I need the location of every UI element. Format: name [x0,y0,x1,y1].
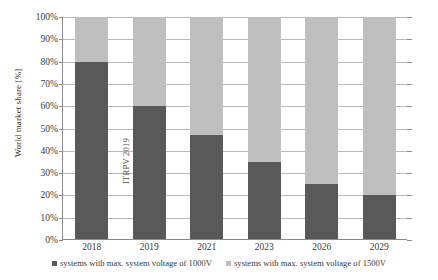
chart-container: World market share [%] 0%10%20%30%40%50%… [0,0,438,280]
legend-swatch-icon [226,261,231,266]
annotation-itrpv: ITRPV 2019 [121,138,131,184]
y-axis-tick-label: 40% [41,146,58,156]
bar-segment-1500v [133,17,166,106]
bar-segment-1000v [190,134,223,239]
y-axis-tick-mark [407,84,412,85]
x-axis-tick-label: 2021 [197,242,216,252]
bar-stack [75,17,108,239]
y-axis-tick-label: 70% [41,79,58,89]
y-axis-tick-mark [407,173,412,174]
y-axis-tick-label: 80% [41,57,58,67]
bar-stack [190,17,223,239]
y-axis-tick-mark [407,39,412,40]
y-axis-tick-mark [407,62,412,63]
bar-segment-1500v [363,17,396,195]
y-axis-title: World market share [%] [13,23,23,203]
bar-segment-1500v [248,17,281,162]
y-axis-tick-mark [59,240,63,241]
legend-label: systems with max. system voltage of 1500… [234,258,386,268]
y-axis-tick-mark [407,195,412,196]
y-axis-tick-label: 30% [41,168,58,178]
bar-segment-1500v [305,17,338,184]
bar-segment-1500v [190,17,223,135]
x-axis-tick-label: 2023 [255,242,274,252]
bar-stack [248,17,281,239]
legend-item: systems with max. system voltage of 1500… [226,258,386,268]
bars-group [63,17,407,239]
legend-item: systems with max. system voltage of 1000… [52,258,212,268]
bar-stack [305,17,338,239]
y-axis-tick-label: 0% [45,235,58,245]
y-axis-tick-mark [407,17,412,18]
bar-segment-1000v [75,61,108,239]
plot-area: 0%10%20%30%40%50%60%70%80%90%100% 201820… [62,17,407,240]
y-axis-tick-mark [407,218,412,219]
x-axis-tick-label: 2019 [140,242,159,252]
y-axis-tick-label: 100% [36,12,58,22]
y-axis-tick-mark [407,151,412,152]
y-axis-tick-mark [407,240,412,241]
y-axis-tick-mark [407,129,412,130]
y-axis-tick-label: 10% [41,213,58,223]
bar-segment-1000v [363,194,396,239]
x-axis-tick-label: 2018 [82,242,101,252]
bar-stack [133,17,166,239]
bar-segment-1000v [248,161,281,239]
y-axis-tick-label: 20% [41,190,58,200]
bar-stack [363,17,396,239]
y-axis-tick-label: 60% [41,101,58,111]
y-axis-tick-label: 90% [41,34,58,44]
legend-label: systems with max. system voltage of 1000… [60,258,212,268]
y-axis-tick-mark [407,106,412,107]
chart-legend: systems with max. system voltage of 1000… [0,258,438,268]
y-axis-tick-label: 50% [41,124,58,134]
bar-segment-1000v [133,105,166,239]
x-axis-tick-label: 2029 [370,242,389,252]
x-axis-tick-label: 2026 [312,242,331,252]
legend-swatch-icon [52,261,57,266]
bar-segment-1500v [75,17,108,62]
bar-segment-1000v [305,183,338,239]
